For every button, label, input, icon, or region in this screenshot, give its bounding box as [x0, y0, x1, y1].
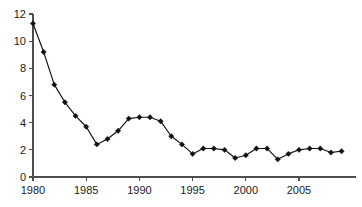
line-chart: 024681012 198019851990199520002005: [0, 0, 362, 207]
y-tick-label: 6: [20, 90, 26, 102]
x-tick-label: 1995: [180, 184, 204, 196]
y-tick-label: 2: [20, 144, 26, 156]
y-tick-label: 4: [20, 117, 26, 129]
x-tick-label: 1990: [127, 184, 151, 196]
y-tick-label: 10: [14, 35, 26, 47]
plot-background: [0, 0, 362, 207]
y-tick-label: 8: [20, 62, 26, 74]
x-tick-label: 2000: [234, 184, 258, 196]
y-tick-label: 0: [20, 171, 26, 183]
x-tick-label: 1980: [21, 184, 45, 196]
x-tick-label: 1985: [74, 184, 98, 196]
chart-container: 024681012 198019851990199520002005: [0, 0, 362, 207]
x-tick-label: 2005: [287, 184, 311, 196]
y-tick-label: 12: [14, 8, 26, 20]
